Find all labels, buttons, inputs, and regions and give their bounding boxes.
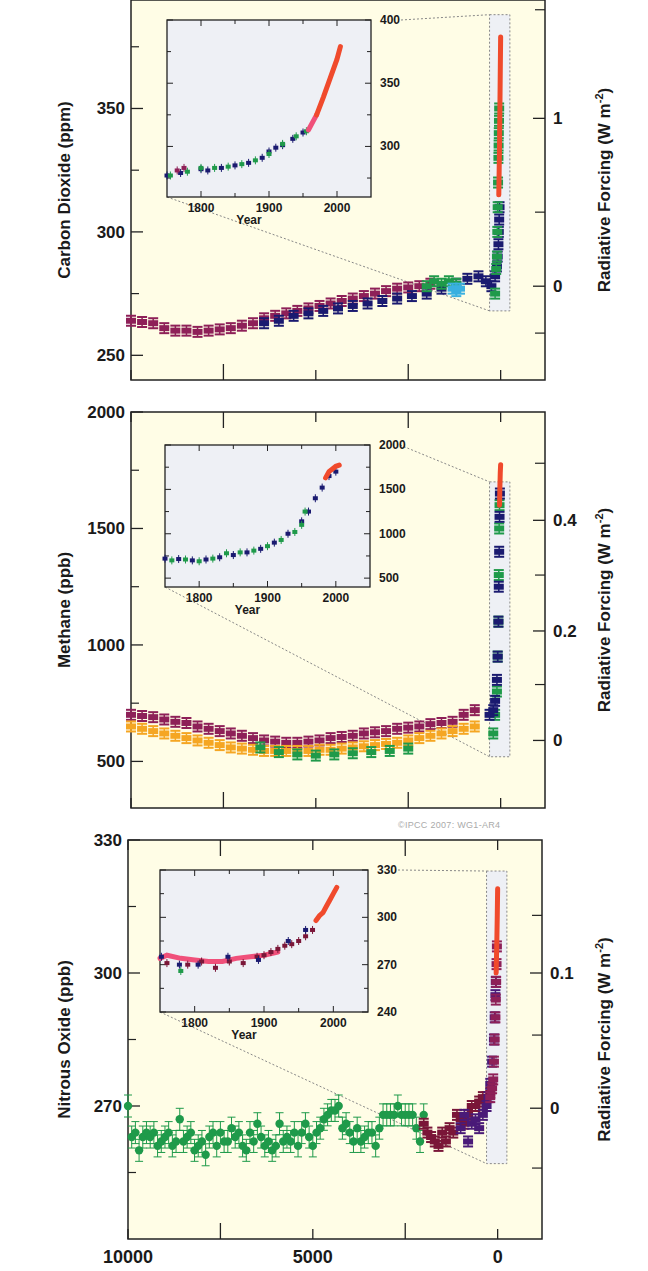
inset-data-point bbox=[212, 166, 217, 170]
inset-data-point bbox=[205, 168, 210, 172]
data-point bbox=[170, 733, 180, 739]
inset-data-point bbox=[286, 939, 291, 943]
data-point bbox=[370, 729, 380, 735]
data-point bbox=[368, 1128, 376, 1136]
data-point bbox=[470, 723, 480, 729]
y2-tick-label: 0.4 bbox=[553, 511, 577, 530]
data-point bbox=[159, 730, 169, 736]
ch4-panel: 50010001500200000.20.4Methane (ppb)Radia… bbox=[55, 403, 614, 808]
data-point bbox=[135, 1146, 143, 1154]
inset-data-point bbox=[159, 955, 164, 959]
data-point bbox=[148, 320, 158, 326]
data-point bbox=[274, 749, 284, 755]
data-point bbox=[198, 1137, 206, 1145]
inset-data-point bbox=[272, 541, 277, 545]
data-point bbox=[425, 721, 435, 727]
inset-data-point bbox=[310, 928, 315, 932]
data-point bbox=[333, 305, 343, 311]
inset-data-point bbox=[303, 510, 308, 514]
data-point bbox=[381, 728, 391, 734]
data-point bbox=[470, 707, 480, 713]
copyright-credit: ©IPCC 2007: WG1-AR4 bbox=[398, 820, 500, 830]
data-point bbox=[493, 619, 503, 625]
inset-y-tick-label: 1500 bbox=[379, 482, 406, 496]
inset-data-point bbox=[273, 146, 278, 150]
inset-y-tick-label: 400 bbox=[380, 13, 400, 27]
inset-data-point bbox=[286, 532, 291, 536]
inset-data-point bbox=[164, 961, 169, 965]
data-point bbox=[494, 584, 504, 590]
data-point bbox=[489, 1059, 499, 1065]
data-point bbox=[303, 310, 313, 316]
data-point bbox=[216, 1128, 224, 1136]
data-point bbox=[309, 1142, 317, 1150]
y-tick-label: 350 bbox=[97, 99, 125, 118]
inset-data-point bbox=[241, 961, 246, 965]
data-point bbox=[353, 1124, 361, 1132]
data-point bbox=[493, 241, 503, 247]
x-tick-label: 5000 bbox=[293, 1247, 333, 1267]
data-line bbox=[496, 889, 497, 973]
y-axis-title: Nitrous Oxide (ppb) bbox=[55, 960, 74, 1119]
data-point bbox=[334, 1102, 342, 1110]
inset-x-axis-title: Year bbox=[231, 1028, 257, 1042]
inset-data-point bbox=[280, 142, 285, 146]
data-point bbox=[441, 1138, 451, 1144]
data-point bbox=[491, 997, 501, 1003]
data-point bbox=[318, 308, 328, 314]
inset-data-point bbox=[231, 553, 236, 557]
data-point bbox=[209, 1128, 217, 1136]
inset-data-point bbox=[182, 166, 187, 170]
data-point bbox=[459, 712, 469, 718]
data-point bbox=[226, 730, 236, 736]
data-point bbox=[193, 723, 203, 729]
data-point bbox=[448, 728, 458, 734]
inset-data-point bbox=[190, 558, 195, 562]
data-point bbox=[381, 288, 391, 294]
inset-data-point bbox=[225, 955, 230, 959]
inset-data-point bbox=[313, 496, 318, 500]
data-line bbox=[500, 465, 501, 506]
data-point bbox=[292, 740, 302, 746]
data-point bbox=[419, 1121, 429, 1127]
inset-data-point bbox=[258, 547, 263, 551]
data-point bbox=[235, 1128, 243, 1136]
inset-data-point bbox=[275, 947, 280, 951]
y-tick-label: 270 bbox=[94, 1097, 122, 1116]
data-point bbox=[259, 320, 269, 326]
data-point bbox=[491, 979, 501, 985]
data-point bbox=[459, 1112, 469, 1118]
data-point bbox=[326, 735, 336, 741]
data-point bbox=[255, 744, 265, 750]
data-point bbox=[126, 723, 136, 729]
y-tick-label: 500 bbox=[97, 752, 125, 771]
data-point bbox=[490, 1014, 500, 1020]
data-point bbox=[315, 737, 325, 743]
data-point bbox=[482, 1103, 492, 1109]
data-point bbox=[492, 677, 502, 683]
data-point bbox=[377, 298, 387, 304]
inset-data-point bbox=[251, 549, 256, 553]
inset-data-point bbox=[204, 557, 209, 561]
inset-data-point bbox=[239, 162, 244, 166]
inset-chart: 180019002000300350400Year bbox=[165, 13, 401, 227]
data-point bbox=[303, 739, 313, 745]
inset-x-axis-title: Year bbox=[235, 603, 261, 617]
inset-y-tick-label: 2000 bbox=[379, 438, 406, 452]
data-point bbox=[126, 318, 136, 324]
inset-data-point bbox=[163, 557, 168, 561]
data-point bbox=[492, 254, 502, 260]
data-point bbox=[137, 726, 147, 732]
data-point bbox=[403, 284, 413, 290]
data-point bbox=[172, 1137, 180, 1145]
data-point bbox=[187, 1128, 195, 1136]
inset-x-tick-label: 1800 bbox=[186, 591, 213, 605]
data-point bbox=[137, 319, 147, 325]
data-point bbox=[226, 744, 236, 750]
data-point bbox=[448, 719, 458, 725]
data-point bbox=[408, 1111, 416, 1119]
data-point bbox=[126, 712, 136, 718]
data-line bbox=[499, 37, 501, 195]
data-point bbox=[348, 750, 358, 756]
data-point bbox=[305, 1133, 313, 1141]
